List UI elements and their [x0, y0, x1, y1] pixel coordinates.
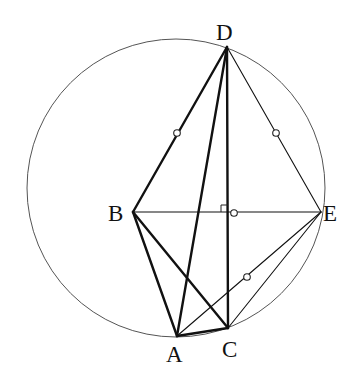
circumcircle [27, 39, 325, 337]
equal-mark-de [273, 130, 280, 137]
equal-mark-db [174, 130, 181, 137]
diagram-canvas: D B E A C [0, 0, 364, 383]
segment-dc [227, 47, 228, 328]
point-label-b: B [108, 201, 123, 226]
point-label-e: E [323, 201, 337, 226]
geometry-diagram: D B E A C [0, 0, 364, 383]
segments [133, 47, 321, 336]
equal-mark-ae [244, 274, 251, 281]
segment-ba [133, 212, 177, 336]
point-label-a: A [166, 342, 183, 367]
point-label-d: D [216, 20, 233, 45]
segment-ce [228, 212, 321, 328]
equal-mark-be [231, 210, 238, 217]
segment-de [227, 47, 321, 212]
point-label-c: C [222, 337, 237, 362]
